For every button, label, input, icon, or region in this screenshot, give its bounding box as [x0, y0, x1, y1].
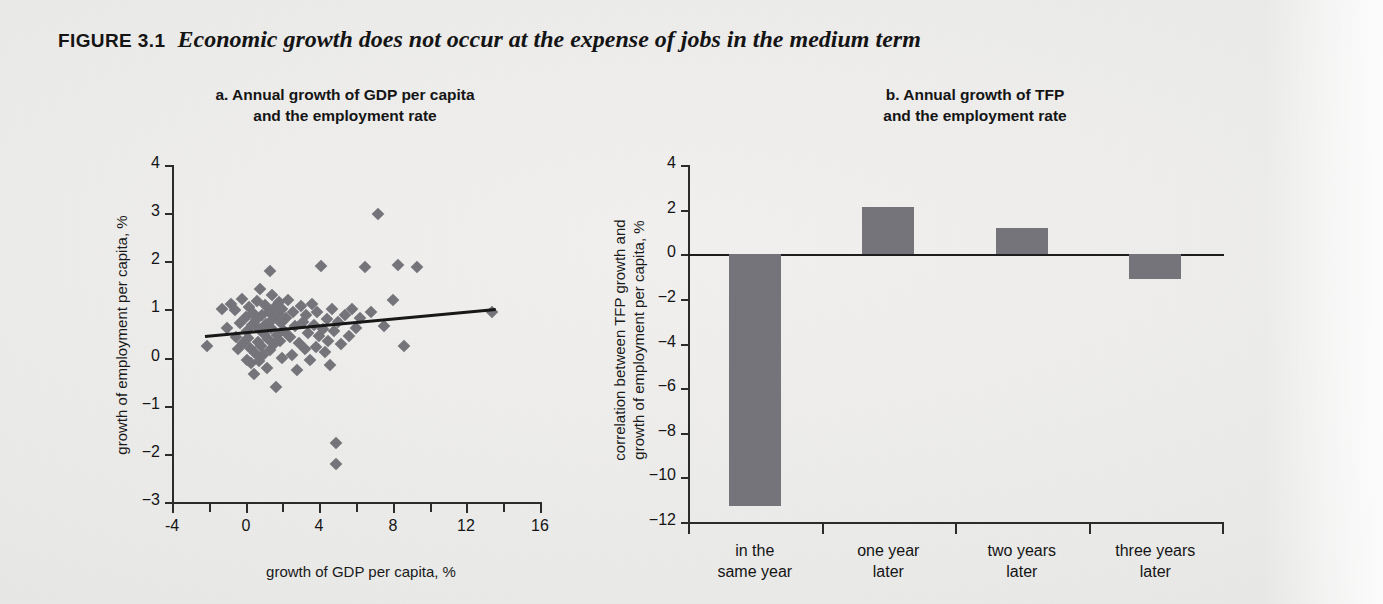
panel-a-y-axis-spine: [172, 165, 174, 504]
panel-b-category-separator: [822, 524, 824, 534]
panel-b-category-label: three yearslater: [1087, 540, 1223, 582]
panel-b-x-axis-right-cap: [1222, 524, 1224, 534]
scatter-point: [397, 339, 410, 352]
category-label-line-2: later: [873, 563, 904, 580]
panel-a-y-tick-label: −3: [120, 491, 160, 509]
panel-a-y-tick: [165, 261, 172, 263]
bar[interactable]: [996, 228, 1048, 255]
scatter-point: [359, 261, 372, 274]
scatter-point: [254, 283, 267, 296]
panel-a-x-tick-label: 16: [515, 517, 565, 535]
scatter-point: [410, 261, 423, 274]
panel-b-y-tick: [681, 254, 688, 256]
panel-a-x-tick: [540, 504, 542, 513]
panel-a-x-tick: [172, 504, 174, 513]
panel-a-y-tick: [165, 309, 172, 311]
panel-a-x-tick-label: 4: [294, 517, 344, 535]
scatter-point: [392, 259, 405, 272]
panel-a-title-line-1: a. Annual growth of GDP per capita: [215, 86, 474, 103]
panel-a-y-tick-label: 3: [120, 202, 160, 220]
panel-b-title-line-2: and the employment rate: [883, 107, 1066, 124]
scatter-point: [304, 354, 317, 367]
scatter-point: [248, 368, 261, 381]
panel-b-y-tick: [681, 522, 688, 524]
scatter-point: [315, 260, 328, 273]
panel-b-y-tick: [681, 433, 688, 435]
panel-a-x-tick: [430, 504, 432, 512]
panel-b-title: b. Annual growth of TFP and the employme…: [760, 84, 1190, 126]
panel-a-x-axis-label: growth of GDP per capita, %: [176, 562, 546, 582]
panel-b-category-label: two yearslater: [954, 540, 1090, 582]
panel-b-x-axis-left-cap: [688, 524, 690, 534]
panel-b-category-separator: [955, 524, 957, 534]
panel-b-y-tick: [681, 299, 688, 301]
panel-a-x-tick-label: 8: [368, 517, 418, 535]
panel-b-y-axis-spine: [688, 165, 690, 524]
panel-a-y-tick-label: −2: [120, 443, 160, 461]
category-label-line-1: in the: [735, 542, 774, 559]
panel-a-title-line-2: and the employment rate: [253, 107, 436, 124]
panel-b-y-axis-label: correlation between TFP growth andgrowth…: [610, 160, 648, 520]
bar[interactable]: [862, 207, 914, 254]
panel-a-x-tick-label: -4: [147, 517, 197, 535]
category-label-line-1: two years: [988, 542, 1056, 559]
scatter-point: [386, 293, 399, 306]
category-label-line-2: later: [1140, 563, 1171, 580]
panel-a-title: a. Annual growth of GDP per capita and t…: [130, 84, 560, 126]
panel-a-x-tick: [246, 504, 248, 513]
scatter-point: [364, 305, 377, 318]
panel-b-y-axis-label-line-1: correlation between TFP growth and: [610, 160, 629, 520]
panel-a-y-tick: [165, 165, 172, 167]
panel-b-category-label: in thesame year: [687, 540, 823, 582]
scatter-point: [270, 380, 283, 393]
panel-b-y-axis-label-line-2: growth of employment per capita, %: [629, 160, 648, 520]
panel-a-x-tick: [503, 504, 505, 512]
panel-b-category-label: one yearlater: [820, 540, 956, 582]
panel-a-x-tick: [393, 504, 395, 513]
panel-b-category-separator: [1089, 524, 1091, 534]
panel-b-y-tick: [681, 477, 688, 479]
panel-b-title-line-1: b. Annual growth of TFP: [886, 86, 1065, 103]
panel-b-y-tick: [681, 388, 688, 390]
scatter-point: [291, 363, 304, 376]
panel-a-x-tick: [282, 504, 284, 512]
panel-b-bars: b. Annual growth of TFP and the employme…: [600, 0, 1383, 604]
category-label-line-1: one year: [857, 542, 919, 559]
scatter-point: [263, 265, 276, 278]
panel-b-y-tick: [681, 210, 688, 212]
scatter-point: [329, 437, 342, 450]
panel-a-x-tick-label: 12: [441, 517, 491, 535]
scatter-point: [324, 358, 337, 371]
panel-a-x-tick-label: 0: [221, 517, 271, 535]
scatter-point: [329, 458, 342, 471]
scatter-point: [201, 339, 214, 352]
panel-a-y-tick: [165, 213, 172, 215]
category-label-line-1: three years: [1115, 542, 1195, 559]
panel-a-y-tick: [165, 406, 172, 408]
panel-a-y-tick-label: 0: [120, 347, 160, 365]
panel-a-y-tick: [165, 502, 172, 504]
panel-a-y-tick-label: 2: [120, 250, 160, 268]
panel-a-y-tick-label: 1: [120, 298, 160, 316]
panel-a-x-tick: [319, 504, 321, 513]
panel-a-x-tick: [209, 504, 211, 512]
panel-a-scatter: a. Annual growth of GDP per capita and t…: [0, 0, 640, 604]
panel-a-y-tick-label: 4: [120, 154, 160, 172]
category-label-line-2: later: [1006, 563, 1037, 580]
panel-a-y-tick-label: −1: [120, 395, 160, 413]
scatter-point: [285, 349, 298, 362]
panel-a-y-tick: [165, 358, 172, 360]
bar[interactable]: [729, 254, 781, 506]
panel-a-x-tick: [356, 504, 358, 512]
bar[interactable]: [1129, 254, 1181, 279]
panel-b-y-tick: [681, 344, 688, 346]
scatter-point: [372, 208, 385, 221]
panel-a-y-tick: [165, 454, 172, 456]
category-label-line-2: same year: [717, 563, 792, 580]
panel-b-y-tick: [681, 165, 688, 167]
panel-a-x-tick: [466, 504, 468, 513]
